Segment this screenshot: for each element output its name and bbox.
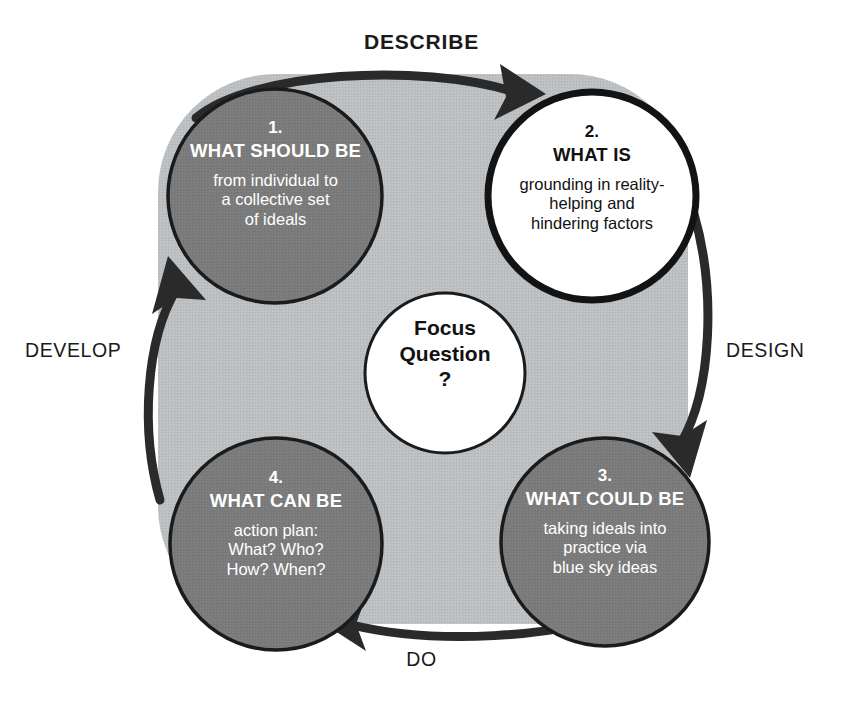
stage-desc-2-line1: grounding in reality- <box>476 175 708 194</box>
stage-number-3: 3. <box>490 466 720 486</box>
stage-desc-2-line3: hindering factors <box>476 214 708 233</box>
focus-line-2: Question <box>360 341 530 367</box>
stage-desc-4-line1: action plan: <box>158 521 394 540</box>
stage-desc-4-line3: How? When? <box>158 560 394 579</box>
phase-label-design: DESIGN <box>726 339 804 362</box>
stage-desc-2: grounding in reality- helping and hinder… <box>476 175 708 233</box>
focus-line-3: ? <box>360 366 530 392</box>
stage-title-3: WHAT COULD BE <box>490 488 720 510</box>
stage-number-4: 4. <box>158 468 394 488</box>
stage-desc-3-line1: taking ideals into <box>490 519 720 538</box>
stage-desc-2-line2: helping and <box>476 194 708 213</box>
stage-desc-3-line3: blue sky ideas <box>490 558 720 577</box>
stage-desc-1-line1: from individual to <box>158 171 393 190</box>
stage-label-2: 2. WHAT IS grounding in reality- helping… <box>476 122 708 233</box>
phase-label-describe: DESCRIBE <box>0 30 843 54</box>
stage-desc-4-line2: What? Who? <box>158 540 394 559</box>
stage-title-1: WHAT SHOULD BE <box>158 140 393 162</box>
stage-label-1: 1. WHAT SHOULD BE from individual to a c… <box>158 118 393 229</box>
stage-desc-1-line3: of ideals <box>158 210 393 229</box>
stage-desc-4: action plan: What? Who? How? When? <box>158 521 394 579</box>
stage-number-2: 2. <box>476 122 708 142</box>
phase-label-develop: DEVELOP <box>25 339 121 362</box>
stage-title-4: WHAT CAN BE <box>158 490 394 512</box>
stage-desc-3-line2: practice via <box>490 538 720 557</box>
stage-desc-1-line2: a collective set <box>158 190 393 209</box>
stage-label-4: 4. WHAT CAN BE action plan: What? Who? H… <box>158 468 394 579</box>
stage-title-2: WHAT IS <box>476 144 708 166</box>
focus-question-label: Focus Question ? <box>360 315 530 392</box>
diagram-canvas: 1. WHAT SHOULD BE from individual to a c… <box>0 0 843 720</box>
stage-desc-3: taking ideals into practice via blue sky… <box>490 519 720 577</box>
stage-desc-1: from individual to a collective set of i… <box>158 171 393 229</box>
stage-number-1: 1. <box>158 118 393 138</box>
phase-label-do: DO <box>0 648 843 671</box>
focus-line-1: Focus <box>360 315 530 341</box>
stage-label-3: 3. WHAT COULD BE taking ideals into prac… <box>490 466 720 577</box>
